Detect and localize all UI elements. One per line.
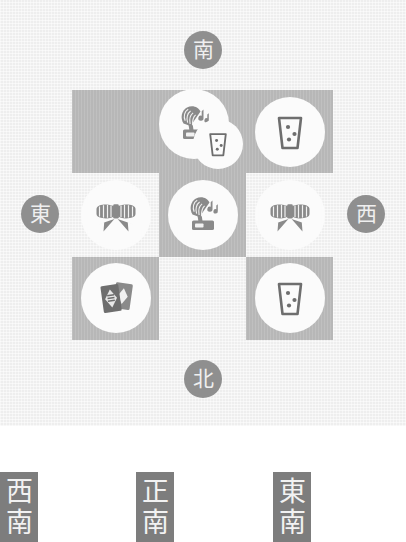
tile-ribbon-bow-icon[interactable] bbox=[81, 180, 151, 250]
grid-cell-r1-c1[interactable] bbox=[159, 173, 246, 256]
tile-ribbon-bow-icon[interactable] bbox=[255, 180, 325, 250]
ribbon-bow-icon bbox=[266, 191, 314, 239]
direction-chip-char: 南 bbox=[6, 507, 33, 538]
direction-label-row: 西南正南東南 bbox=[0, 426, 406, 542]
tile-gramophone-icon[interactable] bbox=[168, 180, 238, 250]
direction-chip-char: 正 bbox=[142, 476, 169, 507]
tile-playing-cards-icon[interactable] bbox=[81, 263, 151, 333]
direction-chip-southeast[interactable]: 東南 bbox=[273, 472, 311, 542]
grid-cell-r1-c2[interactable] bbox=[246, 173, 333, 256]
drinking-glass-icon bbox=[201, 127, 235, 161]
compass-badge-east: 東 bbox=[21, 195, 59, 233]
compass-badge-west: 西 bbox=[347, 195, 385, 233]
drinking-glass-icon bbox=[266, 108, 314, 156]
tile-stack bbox=[161, 91, 245, 173]
grid-cell-r2-c0[interactable] bbox=[72, 257, 159, 340]
tile-drinking-glass-icon[interactable] bbox=[193, 119, 243, 169]
direction-chip-southwest[interactable]: 西南 bbox=[0, 472, 38, 542]
tile-grid bbox=[72, 90, 333, 340]
compass-badge-south: 南 bbox=[184, 31, 222, 69]
tile-drinking-glass-icon[interactable] bbox=[255, 97, 325, 167]
gramophone-icon bbox=[179, 191, 227, 239]
grid-cell-r0-c0[interactable] bbox=[72, 90, 159, 173]
direction-chip-due-south[interactable]: 正南 bbox=[136, 472, 174, 542]
board-panel: 南 西 北 東 bbox=[0, 0, 406, 426]
grid-cell-r1-c0[interactable] bbox=[72, 173, 159, 256]
direction-chip-char: 東 bbox=[279, 476, 306, 507]
direction-chip-char: 西 bbox=[6, 476, 33, 507]
drinking-glass-icon bbox=[266, 274, 314, 322]
tile-drinking-glass-icon[interactable] bbox=[255, 263, 325, 333]
grid-cell-r2-c2[interactable] bbox=[246, 257, 333, 340]
playing-cards-icon bbox=[92, 274, 140, 322]
grid-cell-r2-c1[interactable] bbox=[159, 257, 246, 340]
grid-cell-r0-c1[interactable] bbox=[159, 90, 246, 173]
direction-chip-char: 南 bbox=[279, 507, 306, 538]
grid-cell-r0-c2[interactable] bbox=[246, 90, 333, 173]
direction-chip-char: 南 bbox=[142, 507, 169, 538]
compass-badge-north: 北 bbox=[184, 360, 222, 398]
ribbon-bow-icon bbox=[92, 191, 140, 239]
